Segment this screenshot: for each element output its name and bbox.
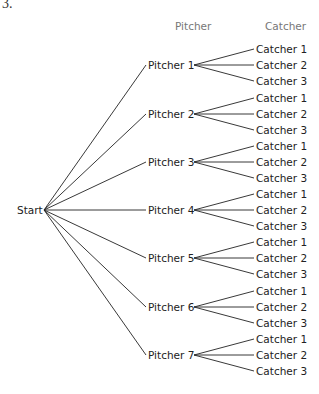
edge-pitcher-to-catcher [194,258,254,274]
catcher-node: Catcher 1 [256,333,307,345]
catcher-node: Catcher 2 [256,204,307,216]
edge-pitcher-to-catcher [194,49,254,65]
edge-pitcher-to-catcher [194,355,254,371]
catcher-node: Catcher 2 [256,252,307,264]
pitcher-node: Pitcher 2 [148,108,194,120]
catcher-node: Catcher 3 [256,365,307,377]
catcher-node: Catcher 2 [256,156,307,168]
pitcher-node: Pitcher 3 [148,156,194,168]
catcher-node: Catcher 1 [256,236,307,248]
catcher-node: Catcher 1 [256,140,307,152]
pitcher-node: Pitcher 6 [148,301,195,313]
catcher-node: Catcher 2 [256,349,307,361]
edge-pitcher-to-catcher [194,339,254,355]
edge-start-to-pitcher [44,210,146,258]
edge-pitcher-to-catcher [194,307,254,323]
edge-pitcher-to-catcher [194,194,254,210]
edge-start-to-pitcher [44,210,146,355]
edge-start-to-pitcher [44,210,146,307]
catcher-column-header: Catcher [265,20,307,32]
catcher-node: Catcher 1 [256,43,307,55]
edge-pitcher-to-catcher [194,98,254,114]
edge-pitcher-to-catcher [194,242,254,258]
catcher-node: Catcher 1 [256,285,307,297]
edge-start-to-pitcher [44,65,146,210]
edge-pitcher-to-catcher [194,210,254,226]
catcher-node: Catcher 2 [256,59,307,71]
edge-pitcher-to-catcher [194,146,254,162]
edge-pitcher-to-catcher [194,65,254,81]
start-node: Start [17,204,43,216]
edge-start-to-pitcher [44,114,146,210]
tree-diagram: Pitcher Catcher Start Pitcher 1Catcher 1… [0,0,319,394]
catcher-node: Catcher 3 [256,124,307,136]
edge-start-to-pitcher [44,162,146,210]
catcher-node: Catcher 3 [256,75,307,87]
pitcher-node: Pitcher 4 [148,204,195,216]
catcher-node: Catcher 1 [256,92,307,104]
catcher-node: Catcher 1 [256,188,307,200]
pitcher-column-header: Pitcher [175,20,212,32]
catcher-node: Catcher 3 [256,317,307,329]
pitcher-node: Pitcher 7 [148,349,194,361]
edge-pitcher-to-catcher [194,162,254,178]
edge-pitcher-to-catcher [194,291,254,307]
pitcher-node: Pitcher 5 [148,252,194,264]
catcher-node: Catcher 3 [256,220,307,232]
catcher-node: Catcher 3 [256,268,307,280]
catcher-node: Catcher 2 [256,108,307,120]
edge-pitcher-to-catcher [194,114,254,130]
catcher-node: Catcher 3 [256,172,307,184]
catcher-node: Catcher 2 [256,301,307,313]
pitcher-node: Pitcher 1 [148,59,194,71]
